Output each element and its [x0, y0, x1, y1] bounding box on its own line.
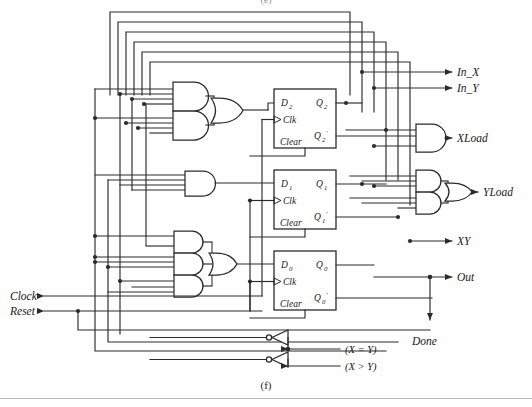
ff1-d-label: D — [280, 179, 288, 189]
ff0-qbar-sub: 0 — [322, 298, 326, 305]
ff2-qbar-sub: 2 — [322, 136, 326, 143]
inverter-bubble-1 — [266, 335, 271, 340]
output-label-xload: XLoad — [456, 132, 488, 144]
output-label-in-y: In_Y — [456, 82, 480, 94]
and-gate-d0-a — [174, 231, 203, 253]
and-gate-xload — [416, 124, 446, 152]
ff2-qbar-label: Q — [314, 131, 321, 141]
ff1-qbar-label: Q — [314, 212, 321, 222]
ff0-clear-label: Clear — [280, 299, 302, 309]
junction-q1 — [360, 182, 364, 186]
and-gate-d0-c — [174, 275, 203, 297]
ff1-clear-label: Clear — [280, 218, 302, 228]
d2-logic-block — [95, 82, 274, 140]
figure-caption-bottom: (f) — [0, 379, 532, 391]
and-gate-d0-b — [174, 253, 203, 275]
and-gate-d2-b — [173, 111, 209, 140]
and-gate-yload-a — [416, 170, 441, 192]
ff2-clear-label: Clear — [280, 137, 302, 147]
or-gate-d2 — [211, 98, 243, 123]
junction-xload-a — [384, 128, 388, 132]
junction-inx — [360, 70, 364, 74]
ff0-q-label: Q — [316, 260, 323, 270]
output-label-out: Out — [457, 271, 475, 283]
ff0-q-sub: 0 — [324, 265, 328, 272]
junction-reset — [76, 309, 80, 313]
ff0-clk-label: Clk — [283, 277, 297, 287]
input-label-x-eq-y: (X = Y) — [345, 344, 377, 356]
ff2-d-label: D — [280, 98, 288, 108]
junction-iny — [372, 86, 376, 90]
flipflop-0: D 0 Q 0 Clk Clear Q 0 ' — [250, 251, 432, 318]
ff1-d-sub: 1 — [289, 184, 292, 191]
output-label-xy: XY — [456, 235, 472, 247]
circuit-schematic: D 2 Q 2 Clk Clear Q 2 ' D 1 Q 1 Clk — [0, 0, 532, 407]
input-label-clock: Clock — [10, 290, 38, 302]
ff0-d-label: D — [280, 260, 288, 270]
ff1-q-sub: 1 — [324, 184, 327, 191]
ff2-q-sub: 2 — [324, 103, 328, 110]
inverter-x-gt-y — [272, 352, 288, 367]
ff2-clk-label: Clk — [283, 115, 297, 125]
inverter-bubble-2 — [266, 357, 271, 362]
or-gate-d0 — [209, 253, 237, 275]
d1-logic-block — [95, 171, 274, 196]
input-label-reset: Reset — [9, 305, 36, 317]
and-gate-d1 — [185, 171, 216, 196]
ff1-qbar-sub: 1 — [322, 217, 325, 224]
input-label-x-gt-y: (X > Y) — [345, 361, 377, 373]
state-feedback-rails — [93, 89, 398, 351]
ff1-clk-label: Clk — [283, 196, 297, 206]
ff1-q-label: Q — [316, 179, 323, 189]
and-gate-d2-a — [173, 82, 209, 111]
or-gate-yload — [445, 183, 472, 201]
figure-divider-rule — [0, 398, 532, 399]
output-label-done: Done — [411, 335, 437, 347]
figure-canvas: (e) — [0, 0, 532, 407]
junction-xy — [408, 239, 412, 243]
ff2-q-label: Q — [316, 98, 323, 108]
ff0-d-sub: 0 — [289, 265, 293, 272]
inverter-x-eq-y — [272, 330, 288, 345]
comparator-inverters — [150, 330, 340, 367]
and-gate-yload-b — [416, 192, 441, 214]
output-label-yload: YLoad — [483, 186, 513, 198]
junction-q1bar — [396, 215, 400, 219]
ff0-qbar-label: Q — [314, 293, 321, 303]
junction-xload-b — [372, 144, 376, 148]
ff2-d-sub: 2 — [289, 103, 293, 110]
junction-q2 — [344, 101, 348, 105]
d0-logic-block — [95, 231, 274, 297]
output-label-in-x: In_X — [456, 66, 480, 78]
